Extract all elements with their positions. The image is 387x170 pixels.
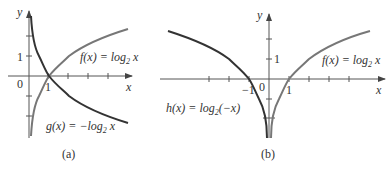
x-axis-label: x	[125, 80, 132, 94]
y-axis-label: y	[16, 5, 23, 19]
origin-label: 0	[17, 77, 23, 91]
h-label: h(x) = log2(−x)	[166, 101, 240, 117]
caption-a: (a)	[62, 147, 75, 161]
y-one-label: 1	[274, 52, 280, 66]
caption-b: (b)	[261, 147, 275, 161]
panel-b: y x 0 1 −1 1 f(x) = log2 x h(x) = log2(−…	[160, 8, 385, 161]
f-label: f(x) = log2 x	[322, 53, 381, 69]
panel-a: y x 0 1 1 f(x) = log2 x g(x) = −log2 x (…	[8, 5, 139, 161]
x-axis-label: x	[375, 83, 382, 97]
g-label: g(x) = −log2 x	[46, 119, 116, 135]
figure: y x 0 1 1 f(x) = log2 x g(x) = −log2 x (…	[0, 0, 387, 170]
y-axis-label: y	[256, 8, 263, 22]
y-one-label: 1	[17, 50, 23, 64]
x-one-label: 1	[286, 83, 292, 97]
curve-g	[31, 16, 128, 123]
f-label: f(x) = log2 x	[80, 50, 139, 66]
x-one-label: 1	[45, 80, 51, 94]
x-neg-one-label: −1	[242, 83, 255, 97]
origin-label: 0	[259, 80, 265, 94]
